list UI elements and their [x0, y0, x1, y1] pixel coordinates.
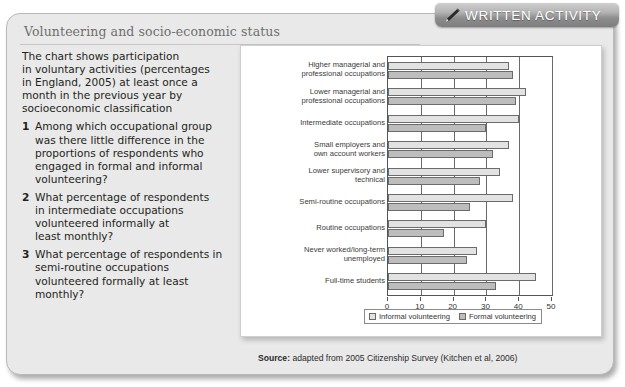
- intro-line: in England, 2005) at least once a: [22, 76, 230, 89]
- chart-category-label-line: Lower managerial and: [245, 87, 385, 96]
- chart-category-label: Semi-routine occupations: [245, 197, 385, 206]
- chart-category-labels: Higher managerial andprofessional occupa…: [243, 56, 385, 296]
- chart-category-label-line: Lower supervisory and: [245, 166, 385, 175]
- question-column: The chart shows participationin voluntar…: [22, 50, 230, 301]
- chart-category-label-line: technical: [245, 175, 385, 184]
- chart-legend-swatch: [459, 313, 466, 320]
- chart-plot-area: [387, 56, 553, 296]
- chart-category-label-line: unemployed: [245, 254, 385, 263]
- chart-category-label: Full-time students: [245, 276, 385, 285]
- chart-category-label-line: Intermediate occupations: [245, 118, 385, 127]
- chart-bar: [388, 256, 467, 264]
- question-line: What percentage of respondents: [35, 191, 230, 204]
- question-number: 2: [22, 191, 35, 243]
- chart-category-label: Routine occupations: [245, 223, 385, 232]
- question-line: semi-routine occupations: [35, 261, 230, 274]
- chart-legend: Informal volunteeringFormal volunteering: [364, 309, 542, 324]
- chart-bar: [388, 247, 477, 255]
- chart-legend-swatch: [369, 313, 376, 320]
- question-line: least monthly?: [35, 230, 230, 243]
- intro-line: month in the previous year by: [22, 89, 230, 102]
- question-line: volunteered informally at: [35, 217, 230, 230]
- chart-bar: [388, 124, 486, 132]
- chart-category-label: Higher managerial andprofessional occupa…: [245, 60, 385, 78]
- chart-legend-label: Informal volunteering: [379, 312, 450, 321]
- written-activity-banner: WRITTEN ACTIVITY: [435, 3, 619, 27]
- chart-bar: [388, 203, 470, 211]
- chart-bar: [388, 177, 480, 185]
- question-line: proportions of respondents who: [35, 147, 230, 160]
- chart-bar: [388, 88, 526, 96]
- chart-x-tick: [551, 297, 552, 301]
- chart-bar: [388, 220, 486, 228]
- question-line: Among which occupational group: [35, 120, 230, 133]
- question-text: What percentage of respondentsin interme…: [35, 191, 230, 243]
- question-line: monthly?: [35, 288, 230, 301]
- chart-category-label-line: Semi-routine occupations: [245, 197, 385, 206]
- pencil-icon: [443, 7, 461, 23]
- chart-bar: [388, 71, 513, 79]
- chart-legend-label: Formal volunteering: [469, 312, 536, 321]
- question-line: engaged in formal and informal: [35, 160, 230, 173]
- chart-legend-item: Informal volunteering: [369, 312, 450, 321]
- chart-category-label-line: Full-time students: [245, 276, 385, 285]
- chart-x-tick-label: 50: [547, 302, 556, 311]
- chart-category-label-line: Small employers and: [245, 140, 385, 149]
- chart-category-label-line: Routine occupations: [245, 223, 385, 232]
- chart-category-label-line: professional occupations: [245, 69, 385, 78]
- chart-bar: [388, 194, 513, 202]
- chart-category-label: Never worked/long-termunemployed: [245, 245, 385, 263]
- chart-bar: [388, 115, 519, 123]
- chart-category-label-line: professional occupations: [245, 96, 385, 105]
- intro-line: in voluntary activities (percentages: [22, 63, 230, 76]
- chart-bar: [388, 168, 500, 176]
- chart-bar: [388, 150, 493, 158]
- question-item: 3What percentage of respondents insemi-r…: [22, 248, 230, 300]
- chart-x-tick: [387, 297, 388, 301]
- source-prefix: Source:: [258, 353, 290, 363]
- question-line: in intermediate occupations: [35, 204, 230, 217]
- question-number: 1: [22, 120, 35, 185]
- question-number: 3: [22, 248, 35, 300]
- chart-legend-item: Formal volunteering: [459, 312, 536, 321]
- chart-x-tick: [485, 297, 486, 301]
- chart-panel: Higher managerial andprofessional occupa…: [240, 45, 602, 337]
- chart-x-tick: [420, 297, 421, 301]
- question-list: 1Among which occupational groupwas there…: [22, 120, 230, 300]
- chart-bar: [388, 62, 509, 70]
- question-line: was there little difference in the: [35, 134, 230, 147]
- question-item: 1Among which occupational groupwas there…: [22, 120, 230, 185]
- intro-line: socioeconomic classification: [22, 102, 230, 115]
- chart-x-tick: [453, 297, 454, 301]
- chart-category-label: Intermediate occupations: [245, 118, 385, 127]
- chart-gridline: [552, 57, 553, 295]
- chart-bar: [388, 141, 509, 149]
- source-text: adapted from 2005 Citizenship Survey (Ki…: [290, 353, 517, 363]
- page-root: WRITTEN ACTIVITY Volunteering and socio-…: [0, 0, 625, 387]
- question-text: What percentage of respondents insemi-ro…: [35, 248, 230, 300]
- chart-category-label-line: Never worked/long-term: [245, 245, 385, 254]
- question-line: volunteered formally at least: [35, 275, 230, 288]
- chart-bar: [388, 282, 496, 290]
- question-item: 2What percentage of respondentsin interm…: [22, 191, 230, 243]
- question-line: volunteering?: [35, 173, 230, 186]
- chart-category-label: Lower supervisory andtechnical: [245, 166, 385, 184]
- intro-line: The chart shows participation: [22, 50, 230, 63]
- source-note: Source: adapted from 2005 Citizenship Su…: [258, 353, 517, 363]
- banner-label: WRITTEN ACTIVITY: [465, 8, 601, 23]
- page-title: Volunteering and socio-economic status: [24, 24, 280, 39]
- chart-plot-wrapper: Higher managerial andprofessional occupa…: [241, 56, 603, 306]
- chart-bar: [388, 97, 516, 105]
- chart-category-label: Small employers andown account workers: [245, 140, 385, 158]
- chart-category-label: Lower managerial andprofessional occupat…: [245, 87, 385, 105]
- chart-bar: [388, 273, 536, 281]
- chart-category-label-line: own account workers: [245, 149, 385, 158]
- intro-paragraph: The chart shows participationin voluntar…: [22, 50, 230, 115]
- chart-x-tick: [518, 297, 519, 301]
- question-line: What percentage of respondents in: [35, 248, 230, 261]
- question-text: Among which occupational groupwas there …: [35, 120, 230, 185]
- chart-category-label-line: Higher managerial and: [245, 60, 385, 69]
- chart-bar: [388, 229, 444, 237]
